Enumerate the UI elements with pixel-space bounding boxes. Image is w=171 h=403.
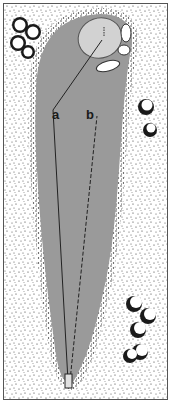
label-a: a [52,107,60,122]
bunker [121,24,131,42]
label-b: b [86,107,94,122]
tee-box [65,374,72,388]
bunker [118,45,130,55]
golf-hole-diagram: a b [0,0,171,403]
